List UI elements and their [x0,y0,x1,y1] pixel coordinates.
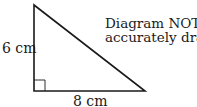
diagram-note: Diagram NOT accurately drawn [105,16,197,44]
note-line-1: Diagram NOT [105,16,197,30]
right-angle-marker [34,80,45,91]
horizontal-side-label: 8 cm [73,94,107,107]
vertical-side-label: 6 cm [2,41,36,55]
note-line-2: accurately drawn [105,30,197,44]
